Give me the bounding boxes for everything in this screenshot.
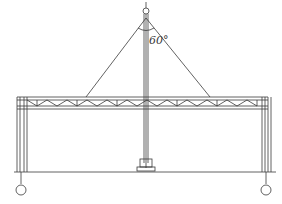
left-column	[17, 97, 27, 172]
left-axis-marker-icon	[16, 172, 26, 195]
diagram-canvas: 60°	[0, 0, 282, 204]
central-mast	[144, 14, 148, 168]
right-axis-marker-icon	[261, 172, 271, 195]
right-column	[262, 97, 271, 172]
angle-label: 60°	[149, 34, 169, 47]
truss-erection-drawing: 60°	[0, 0, 282, 204]
top-marker-icon	[143, 2, 149, 14]
roof-truss	[17, 97, 268, 109]
